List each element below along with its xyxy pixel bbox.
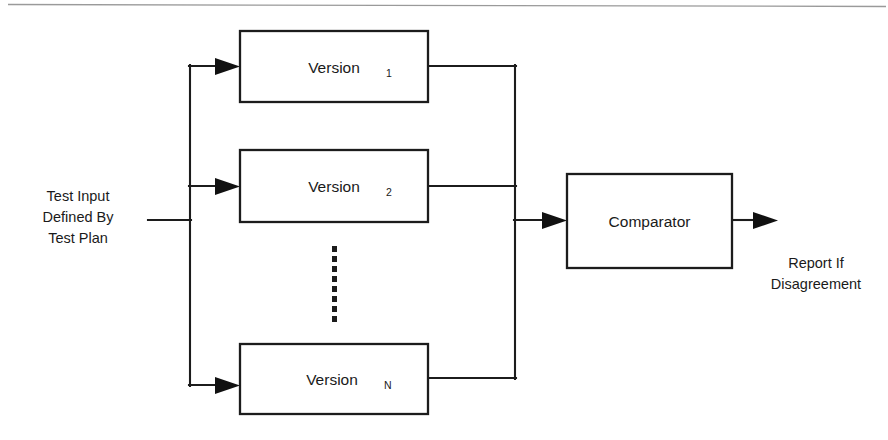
input-label-line-1: Test Input [47, 188, 110, 204]
version-2-label: Version [308, 178, 360, 195]
version-n-label: Version [306, 371, 358, 388]
scan-rule-line [8, 5, 886, 7]
arrowhead-into-version-n [215, 377, 240, 394]
comparator-label: Comparator [609, 213, 691, 230]
figure-canvas: Version 1 Version 2 Version N Comparator… [0, 0, 888, 440]
input-label-line-3: Test Plan [48, 230, 108, 246]
arrowhead-into-comparator [542, 212, 567, 229]
block-diagram: Version 1 Version 2 Version N Comparator… [0, 0, 888, 440]
version-n-subscript: N [384, 379, 392, 391]
version-1-label: Version [308, 59, 360, 76]
version-1-subscript: 1 [386, 67, 392, 79]
input-label-line-2: Defined By [43, 209, 115, 225]
version-2-subscript: 2 [386, 186, 392, 198]
vertical-ellipsis [332, 246, 337, 322]
arrowhead-into-version-2 [215, 178, 240, 195]
arrowhead-comparator-output [753, 212, 778, 229]
output-label-line-1: Report If [788, 255, 845, 271]
output-label-line-2: Disagreement [771, 276, 861, 292]
arrowhead-into-version-1 [215, 58, 240, 75]
